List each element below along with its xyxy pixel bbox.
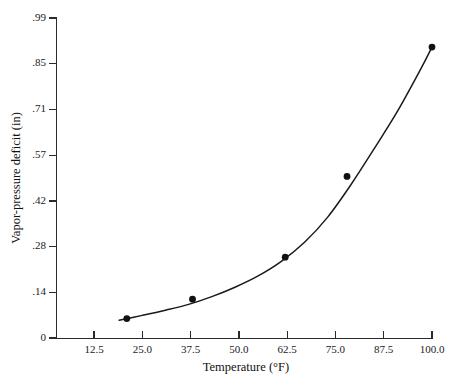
x-tick-label: 100.0	[420, 343, 445, 355]
data-point	[282, 254, 289, 261]
y-tick-label: .71	[32, 102, 46, 114]
x-tick-label: 75.0	[326, 343, 346, 355]
x-tick-label: 25.0	[133, 343, 153, 355]
y-tick-label: .42	[32, 194, 46, 206]
x-tick-label: 50.0	[229, 343, 249, 355]
data-point	[189, 296, 196, 303]
chart-figure: .99 .85 .71 .57 .42 .28 .14 0 Vapor-pres…	[0, 0, 450, 380]
x-tick-label: 37.5	[181, 343, 201, 355]
y-tick-label: 0	[41, 331, 47, 343]
chart-background	[0, 0, 450, 380]
data-point	[344, 173, 351, 180]
y-tick-label: .28	[32, 239, 46, 251]
y-tick-label: .99	[32, 11, 46, 23]
y-tick-label: .14	[32, 285, 46, 297]
data-point	[123, 315, 130, 322]
x-tick-label: 87.5	[374, 343, 394, 355]
x-tick-label: 62.5	[277, 343, 297, 355]
x-axis-title: Temperature (°F)	[203, 360, 289, 374]
y-tick-label: .57	[32, 148, 46, 160]
data-point	[429, 44, 436, 51]
y-axis-title: Vapor-pressure deficit (in)	[9, 112, 23, 244]
y-tick-label: .85	[32, 56, 46, 68]
vapor-pressure-deficit-scatter-chart: .99 .85 .71 .57 .42 .28 .14 0 Vapor-pres…	[0, 0, 450, 380]
x-tick-label: 12.5	[84, 343, 104, 355]
